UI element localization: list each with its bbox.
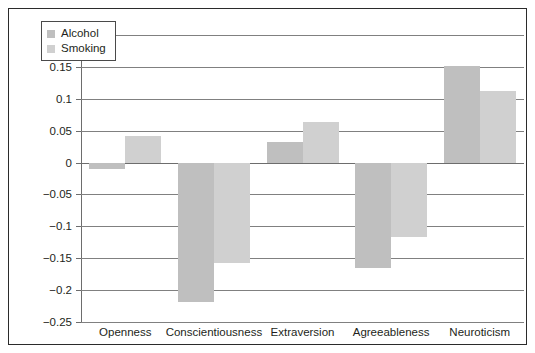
bar-smoking-agreeableness [391, 163, 427, 238]
bar-alcohol-extraversion [267, 142, 303, 162]
gridline [81, 258, 524, 259]
chart-figure: 0.20.150.10.050−0.05−0.1−0.15−0.2−0.25 O… [0, 0, 535, 353]
chart-legend: Alcohol Smoking [41, 21, 116, 61]
y-tick-mark [76, 290, 81, 291]
y-tick-label: −0.15 [43, 252, 72, 264]
legend-label-alcohol: Alcohol [61, 26, 99, 41]
gridline [81, 290, 524, 291]
y-tick-mark [76, 131, 81, 132]
legend-item-alcohol: Alcohol [47, 26, 106, 41]
gridline [81, 194, 524, 195]
x-tick-label-neuroticism: Neuroticism [449, 326, 510, 338]
gridline [81, 163, 524, 164]
y-tick-label: 0.15 [50, 61, 72, 73]
y-tick-mark [76, 194, 81, 195]
x-tick-label-openness: Openness [99, 326, 151, 338]
y-tick-label: −0.25 [43, 316, 72, 328]
figure-frame: 0.20.150.10.050−0.05−0.1−0.15−0.2−0.25 O… [8, 8, 527, 345]
y-tick-mark [76, 67, 81, 68]
bar-alcohol-agreeableness [355, 163, 391, 268]
y-tick-label: 0 [66, 157, 72, 169]
y-tick-mark [76, 163, 81, 164]
y-tick-mark [76, 322, 81, 323]
legend-label-smoking: Smoking [61, 41, 106, 56]
bar-smoking-neuroticism [480, 91, 516, 162]
bar-alcohol-neuroticism [444, 66, 480, 163]
x-tick-label-extraversion: Extraversion [271, 326, 335, 338]
bar-alcohol-openness [89, 163, 125, 169]
y-tick-label: 0.05 [50, 125, 72, 137]
x-tick-label-conscientiousness: Conscientiousness [166, 326, 263, 338]
gridline [81, 226, 524, 227]
y-tick-mark [76, 99, 81, 100]
legend-swatch-alcohol-icon [47, 30, 55, 38]
gridline [81, 35, 524, 36]
gridline [81, 322, 524, 323]
legend-swatch-smoking-icon [47, 45, 55, 53]
bar-smoking-openness [125, 136, 161, 162]
y-tick-label: −0.1 [49, 220, 72, 232]
bar-alcohol-conscientiousness [178, 163, 214, 302]
y-tick-label: −0.05 [43, 188, 72, 200]
y-tick-label: 0.1 [56, 93, 72, 105]
legend-item-smoking: Smoking [47, 41, 106, 56]
bar-smoking-extraversion [303, 122, 339, 162]
bar-smoking-conscientiousness [214, 163, 250, 264]
plot-area: 0.20.150.10.050−0.05−0.1−0.15−0.2−0.25 O… [81, 35, 524, 322]
x-tick-label-agreeableness: Agreeableness [353, 326, 430, 338]
y-tick-mark [76, 226, 81, 227]
y-tick-mark [76, 258, 81, 259]
y-tick-label: −0.2 [49, 284, 72, 296]
